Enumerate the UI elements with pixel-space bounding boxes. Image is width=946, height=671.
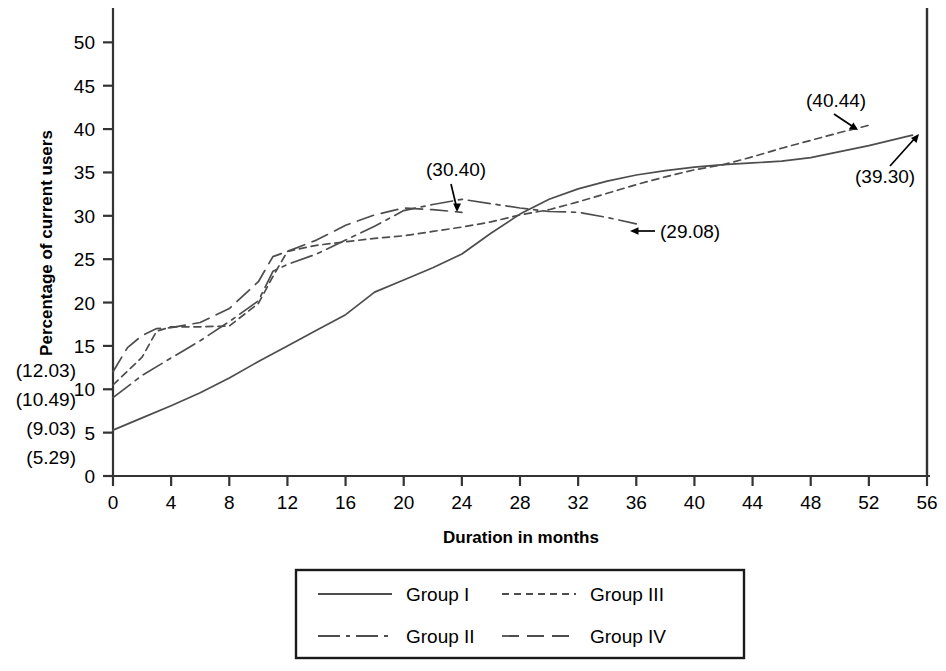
annotation-g3-end: (40.44) bbox=[806, 90, 866, 111]
series-line-group-iv bbox=[113, 208, 462, 372]
x-tick-label: 8 bbox=[224, 492, 235, 513]
y-tick-label: 15 bbox=[74, 336, 95, 357]
x-tick-label: 28 bbox=[509, 492, 530, 513]
annotation-g4-peak-arrowhead bbox=[453, 204, 461, 213]
x-tick-label: 36 bbox=[626, 492, 647, 513]
y-tick-label: 40 bbox=[74, 119, 95, 140]
legend-label-group-iii: Group III bbox=[590, 584, 664, 605]
x-tick-label: 0 bbox=[108, 492, 119, 513]
x-tick-label: 44 bbox=[742, 492, 764, 513]
y-tick-label: 50 bbox=[74, 32, 95, 53]
x-tick-label: 24 bbox=[451, 492, 473, 513]
chart-svg: 05101520253035404550 0481216202428323640… bbox=[0, 0, 946, 671]
x-tick-group: 048121620242832364044485256 bbox=[108, 476, 938, 513]
x-tick-label: 52 bbox=[858, 492, 879, 513]
y-tick-label: 35 bbox=[74, 162, 95, 183]
y-tick-label: 25 bbox=[74, 249, 95, 270]
series-line-group-iii bbox=[113, 125, 869, 385]
y-axis-label: Percentage of current users bbox=[37, 130, 56, 356]
y-tick-label: 20 bbox=[74, 293, 95, 314]
x-axis-label: Duration in months bbox=[443, 528, 599, 547]
annotation-g1-end-arrow bbox=[890, 137, 916, 166]
x-tick-label: 20 bbox=[393, 492, 414, 513]
annotation-g2-end-arrowhead bbox=[630, 227, 639, 234]
left-annotation-1204: (12.03) bbox=[16, 360, 76, 381]
legend-box bbox=[296, 570, 744, 658]
x-tick-label: 40 bbox=[684, 492, 705, 513]
x-tick-label: 32 bbox=[568, 492, 589, 513]
x-tick-label: 16 bbox=[335, 492, 356, 513]
x-tick-label: 4 bbox=[166, 492, 177, 513]
line-chart: 05101520253035404550 0481216202428323640… bbox=[0, 0, 946, 671]
annotation-g4-peak: (30.40) bbox=[426, 159, 486, 180]
left-annotation-529: (5.29) bbox=[26, 447, 76, 468]
legend-label-group-ii: Group II bbox=[406, 626, 475, 647]
x-tick-label: 48 bbox=[800, 492, 821, 513]
left-annotation-1049: (10.49) bbox=[16, 389, 76, 410]
x-tick-label: 12 bbox=[277, 492, 298, 513]
y-tick-label: 10 bbox=[74, 379, 95, 400]
legend-label-group-i: Group I bbox=[406, 584, 469, 605]
legend-label-group-iv: Group IV bbox=[590, 626, 666, 647]
x-tick-label: 56 bbox=[916, 492, 937, 513]
y-tick-group: 05101520253035404550 bbox=[74, 32, 113, 487]
series-line-group-ii bbox=[113, 199, 636, 397]
series-group bbox=[113, 125, 913, 430]
y-tick-label: 45 bbox=[74, 76, 95, 97]
series-line-group-i bbox=[113, 135, 913, 430]
annotation-g1-end: (39.30) bbox=[855, 166, 915, 187]
y-tick-label: 5 bbox=[84, 423, 95, 444]
annotation-g3-end-arrowhead bbox=[849, 123, 858, 130]
annotation-g2-end: (29.08) bbox=[660, 221, 720, 242]
y-tick-label: 0 bbox=[84, 466, 95, 487]
left-annotation-903: (9.03) bbox=[26, 418, 76, 439]
y-tick-label: 30 bbox=[74, 206, 95, 227]
